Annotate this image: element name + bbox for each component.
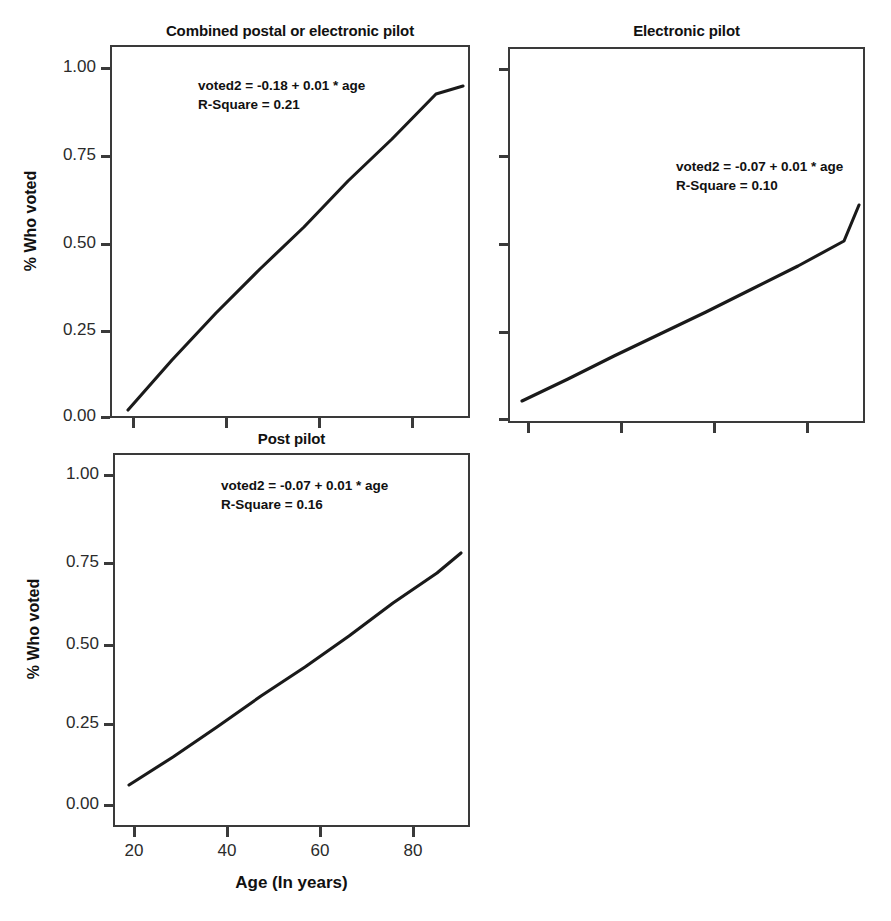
annotation-rsquare: R-Square = 0.21 xyxy=(198,96,365,115)
xtick-mark xyxy=(132,418,135,428)
ytick-mark xyxy=(104,804,113,807)
xtick-label: 80 xyxy=(383,841,443,861)
ytick-mark xyxy=(101,67,110,70)
ytick-mark xyxy=(499,68,508,71)
annotation-equation: voted2 = -0.07 + 0.01 * age xyxy=(221,477,388,496)
panel-title-combined: Combined postal or electronic pilot xyxy=(110,22,470,39)
ytick-mark xyxy=(104,562,113,565)
ytick-label: 0.25 xyxy=(44,320,96,340)
ytick-label: 0.00 xyxy=(44,406,96,426)
ytick-mark xyxy=(101,155,110,158)
panel-title-electronic: Electronic pilot xyxy=(508,22,865,39)
ytick-label: 0.25 xyxy=(47,713,99,733)
ytick-label: 0.50 xyxy=(47,634,99,654)
ytick-mark xyxy=(104,474,113,477)
ytick-label: 0.00 xyxy=(47,794,99,814)
xtick-mark xyxy=(411,418,414,428)
annotation-combined: voted2 = -0.18 + 0.01 * age R-Square = 0… xyxy=(198,77,365,114)
ytick-mark xyxy=(104,644,113,647)
ytick-mark xyxy=(104,723,113,726)
xtick-mark xyxy=(319,827,322,837)
ytick-mark xyxy=(499,243,508,246)
xtick-mark xyxy=(226,827,229,837)
xtick-mark xyxy=(133,827,136,837)
ytick-label: 0.75 xyxy=(44,145,96,165)
xtick-mark xyxy=(620,423,623,433)
xtick-mark xyxy=(412,827,415,837)
y-axis-title-top: % Who voted xyxy=(22,151,40,291)
regression-line-electronic xyxy=(510,49,867,425)
annotation-equation: voted2 = -0.07 + 0.01 * age xyxy=(676,158,843,177)
xtick-mark xyxy=(713,423,716,433)
ytick-mark xyxy=(499,331,508,334)
caption-strip xyxy=(0,907,891,921)
panel-post: Post pilot 1.00 0.75 0.50 0.25 0.00 20 4… xyxy=(113,430,470,827)
x-axis-title: Age (In years) xyxy=(113,873,470,893)
xtick-mark xyxy=(806,423,809,433)
plot-area-electronic xyxy=(508,47,865,423)
annotation-electronic: voted2 = -0.07 + 0.01 * age R-Square = 0… xyxy=(676,158,843,195)
y-axis-title-bottom: % Who voted xyxy=(25,559,43,699)
panel-electronic: Electronic pilot voted2 = -0.07 + 0.01 *… xyxy=(508,22,865,424)
ytick-label: 1.00 xyxy=(44,57,96,77)
ytick-label: 1.00 xyxy=(47,464,99,484)
xtick-label: 40 xyxy=(197,841,257,861)
ytick-mark xyxy=(101,416,110,419)
annotation-equation: voted2 = -0.18 + 0.01 * age xyxy=(198,77,365,96)
xtick-mark xyxy=(318,418,321,428)
panel-combined: Combined postal or electronic pilot 1.00… xyxy=(110,22,470,418)
ytick-mark xyxy=(101,243,110,246)
annotation-rsquare: R-Square = 0.10 xyxy=(676,177,843,196)
ytick-label: 0.75 xyxy=(47,552,99,572)
ytick-label: 0.50 xyxy=(44,233,96,253)
panel-title-post: Post pilot xyxy=(113,430,470,447)
xtick-mark xyxy=(225,418,228,428)
ytick-mark xyxy=(101,330,110,333)
ytick-mark xyxy=(499,418,508,421)
xtick-mark xyxy=(527,423,530,433)
annotation-post: voted2 = -0.07 + 0.01 * age R-Square = 0… xyxy=(221,477,388,514)
regression-panel-figure: Combined postal or electronic pilot 1.00… xyxy=(0,0,891,921)
xtick-label: 60 xyxy=(290,841,350,861)
xtick-label: 20 xyxy=(104,841,164,861)
annotation-rsquare: R-Square = 0.16 xyxy=(221,496,388,515)
ytick-mark xyxy=(499,155,508,158)
